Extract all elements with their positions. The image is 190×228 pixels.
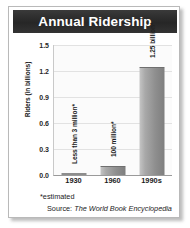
source-prefix: Source:: [47, 204, 74, 213]
x-tick-label-1960: 1960: [93, 177, 132, 184]
chart-card: Annual Ridership Riders (in billions) 1.…: [8, 6, 180, 218]
bar-group-1930: Less than 3 million*: [54, 45, 93, 175]
bar-1960[interactable]: [100, 166, 125, 175]
bars-layer: Less than 3 million* 100 million* 1.25 b…: [53, 45, 171, 175]
bar-value-label-1960: 100 million*: [109, 67, 116, 157]
footnote-estimated: *estimated: [40, 192, 74, 201]
source-line: Source: The World Book Encyclopedia: [47, 204, 172, 213]
y-tick-label: 0.9: [23, 94, 49, 101]
x-axis-tick-labels: 1930 1960 1990s: [53, 177, 171, 189]
y-tick-label: 1.2: [23, 68, 49, 75]
y-tick-label: 1.5: [23, 42, 49, 49]
bar-group-1990s: 1.25 billion*: [132, 45, 171, 175]
bar-value-label-1990s: 1.25 billion*: [148, 0, 155, 58]
x-tick-label-1930: 1930: [54, 177, 93, 184]
chart-body: Riders (in billions) 1.5 1.2 0.9 0.6 0.3…: [9, 34, 181, 217]
y-tick-label: 0.6: [23, 120, 49, 127]
y-tick-label: 0.3: [23, 146, 49, 153]
bar-value-label-1930: Less than 3 million*: [70, 74, 77, 164]
x-tick-label-1990s: 1990s: [132, 177, 171, 184]
bar-group-1960: 100 million*: [93, 45, 132, 175]
y-axis-tick-labels: 1.5 1.2 0.9 0.6 0.3 0.0: [23, 45, 49, 175]
bar-1990s[interactable]: [139, 67, 164, 175]
source-title: The World Book Encyclopedia: [74, 204, 172, 213]
y-tick-label: 0.0: [23, 172, 49, 179]
bar-1930[interactable]: [61, 173, 86, 175]
page-title: Annual Ridership: [38, 15, 151, 29]
